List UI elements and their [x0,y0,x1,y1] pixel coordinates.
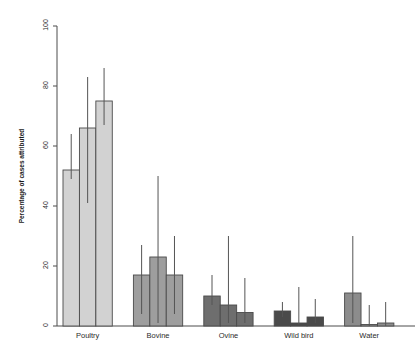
y-tick-label: 80 [42,81,49,89]
x-axis-category-label: Poultry [76,331,100,340]
bar-chart-svg: 020406080100Percentage of cases attribut… [0,0,420,353]
bar-group [345,236,394,326]
bar-group [63,68,112,326]
bar-group [133,176,182,326]
x-axis-category-label: Ovine [219,331,239,340]
y-axis-title: Percentage of cases attributed [18,129,26,224]
x-axis-category-label: Bovine [147,331,170,340]
bar [63,170,79,326]
x-axis-category-label: Water [359,331,379,340]
y-tick-label: 0 [42,323,49,327]
chart-container: 020406080100Percentage of cases attribut… [0,0,420,353]
y-tick-label: 100 [42,19,49,31]
bar-group [204,236,253,326]
bar-group [274,287,323,326]
y-tick-label: 20 [42,261,49,269]
y-tick-label: 40 [42,201,49,209]
x-axis-category-label: Wild bird [284,331,313,340]
bar [96,101,112,326]
y-tick-label: 60 [42,141,49,149]
